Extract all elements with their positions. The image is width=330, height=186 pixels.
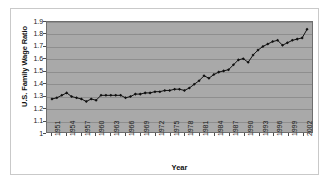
x-axis-tick-label: 1984 (217, 110, 224, 136)
x-axis-tick-label: 1975 (173, 110, 180, 136)
x-axis-tick-label: 1990 (247, 110, 254, 136)
x-axis-tick-mark (273, 133, 274, 136)
x-axis-tick-label: 1996 (276, 110, 283, 136)
x-axis-tick-label: 1993 (262, 110, 269, 136)
y-axis-tick-label: 1.4 (3, 80, 43, 87)
x-axis-tick-label: 2002 (306, 110, 313, 136)
data-point-marker (153, 90, 156, 93)
x-axis-title: Year (46, 163, 313, 172)
x-axis-tick-label: 1978 (187, 110, 194, 136)
data-point-marker (158, 90, 161, 93)
x-axis-tick-mark (110, 133, 111, 136)
data-point-marker (109, 94, 112, 97)
x-axis-tick-label: 1966 (128, 110, 135, 136)
x-axis-tick-mark (155, 133, 156, 136)
y-axis-tick-label: 1.3 (3, 92, 43, 99)
x-axis-tick-label: 1981 (202, 110, 209, 136)
x-axis-tick-mark (229, 133, 230, 136)
x-axis-tick-mark (184, 133, 185, 136)
x-axis-tick-label: 1960 (98, 110, 105, 136)
x-axis-tick-mark (95, 133, 96, 136)
y-axis-tick-label: 1.5 (3, 67, 43, 74)
y-axis-tick-label: 1.9 (3, 18, 43, 25)
x-axis-tick-label: 1999 (291, 110, 298, 136)
data-point-marker (296, 38, 299, 41)
x-axis-tick-label: 1963 (113, 110, 120, 136)
x-axis-tick-mark (199, 133, 200, 136)
y-axis-tick-mark (43, 133, 46, 134)
x-axis-tick-label: 1957 (84, 110, 91, 136)
data-point-marker (139, 93, 142, 96)
data-point-marker (75, 96, 78, 99)
x-axis-tick-mark (81, 133, 82, 136)
data-point-marker (144, 91, 147, 94)
data-point-marker (114, 94, 117, 97)
data-point-marker (163, 89, 166, 92)
x-axis-tick-mark (51, 133, 52, 136)
data-point-marker (173, 88, 176, 91)
x-axis-tick-label: 1954 (69, 110, 76, 136)
chart-plot-wrapper: U.S. Family Wage Ratio 1.91.81.71.61.51.… (0, 0, 330, 186)
y-axis-tick-label: 1.1 (3, 117, 43, 124)
y-axis-tick-label: 1.6 (3, 55, 43, 62)
x-axis-tick-label: 1951 (54, 110, 61, 136)
x-axis-tick-mark (288, 133, 289, 136)
x-axis-tick-label: 1969 (143, 110, 150, 136)
data-point-marker (149, 91, 152, 94)
data-point-marker (168, 89, 171, 92)
y-axis-tick-label: 1.7 (3, 42, 43, 49)
y-axis-tick-label: 1.8 (3, 30, 43, 37)
chart-figure: U.S. Family Wage Ratio 1.91.81.71.61.51.… (0, 0, 330, 186)
x-axis-tick-mark (214, 133, 215, 136)
x-axis-tick-mark (140, 133, 141, 136)
data-point-marker (50, 97, 53, 100)
x-axis-tick-mark (244, 133, 245, 136)
series-markers (50, 28, 308, 103)
y-axis-tick-label: 1.2 (3, 105, 43, 112)
x-axis-tick-mark (170, 133, 171, 136)
x-axis-tick-label: 1972 (158, 110, 165, 136)
y-axis-tick-label: 1 (3, 130, 43, 137)
data-point-marker (222, 69, 225, 72)
x-axis-tick-mark (259, 133, 260, 136)
x-axis-tick-label: 1987 (232, 110, 239, 136)
x-axis-tick-mark (303, 133, 304, 136)
x-axis-tick-mark (125, 133, 126, 136)
data-point-marker (178, 88, 181, 91)
data-point-marker (104, 94, 107, 97)
x-axis-tick-mark (66, 133, 67, 136)
